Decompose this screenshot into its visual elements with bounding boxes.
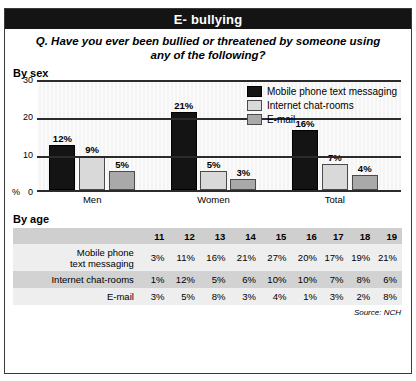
bar-value-label: 4% <box>352 163 378 174</box>
table-cell: 21% <box>375 244 402 271</box>
row-header: E-mail <box>13 288 139 305</box>
age-table-wrapper: 111213141516171819 Mobile phonetext mess… <box>13 228 402 305</box>
legend-label: E-mail <box>267 114 295 125</box>
bar-value-label: 21% <box>171 100 197 111</box>
table-cell: 12% <box>169 271 200 288</box>
table-cell: 3% <box>139 288 170 305</box>
source-note: Source: NCH <box>5 305 411 317</box>
section-label-by-sex: By sex <box>5 64 411 80</box>
bar-value-label: 9% <box>79 144 105 155</box>
y-axis-unit: % <box>12 187 20 197</box>
table-cell: 8% <box>200 288 231 305</box>
title-banner: E- bullying <box>5 9 411 29</box>
y-axis-tick: 20 <box>23 112 33 122</box>
legend-swatch-icon <box>247 100 262 111</box>
bar-women-series0 <box>171 112 197 190</box>
table-corner-cell <box>13 228 139 244</box>
age-table-body: Mobile phonetext messaging3%11%16%21%27%… <box>13 244 402 305</box>
legend-item: Internet chat-rooms <box>247 99 397 112</box>
table-row: Internet chat-rooms1%12%5%6%10%10%7%8%6% <box>13 271 402 288</box>
bar-men-series0 <box>49 145 75 190</box>
bar-value-label: 5% <box>200 159 226 170</box>
y-axis-tick: 10 <box>23 150 33 160</box>
age-table: 111213141516171819 Mobile phonetext mess… <box>13 228 402 305</box>
table-cell: 10% <box>291 271 322 288</box>
column-header-age-15: 15 <box>261 228 292 244</box>
table-cell: 3% <box>322 288 349 305</box>
page-title: E- bullying <box>174 12 243 27</box>
infographic-frame: E- bullying Q. Have you ever been bullie… <box>4 8 412 374</box>
bar-men-series2 <box>109 171 135 190</box>
table-cell: 11% <box>169 244 200 271</box>
bar-value-label: 3% <box>230 167 256 178</box>
y-axis-tick: 0 <box>28 187 33 197</box>
gridline <box>37 156 401 158</box>
y-axis: 0%102030 <box>13 80 35 192</box>
table-cell: 3% <box>139 244 170 271</box>
legend-label: Internet chat-rooms <box>267 100 354 111</box>
bar-chart: 0%102030 12%9%5%21%5%3%16%7%4% MenWomenT… <box>13 80 401 210</box>
table-header-row: 111213141516171819 <box>13 228 402 244</box>
table-cell: 4% <box>261 288 292 305</box>
table-cell: 1% <box>291 288 322 305</box>
column-header-age-18: 18 <box>349 228 376 244</box>
bar-total-series0 <box>292 130 318 190</box>
x-axis-label-women: Women <box>197 194 230 205</box>
table-cell: 6% <box>230 271 261 288</box>
legend-swatch-icon <box>247 86 262 97</box>
column-header-age-17: 17 <box>322 228 349 244</box>
x-axis-label-total: Total <box>325 194 345 205</box>
x-axis-label-men: Men <box>83 194 101 205</box>
table-cell: 19% <box>349 244 376 271</box>
legend-item: Mobile phone text messaging <box>247 85 397 98</box>
survey-question: Q. Have you ever been bullied or threate… <box>5 29 411 64</box>
legend-swatch-icon <box>247 114 262 125</box>
table-row: Mobile phonetext messaging3%11%16%21%27%… <box>13 244 402 271</box>
y-axis-tick: 30 <box>23 75 33 85</box>
table-cell: 2% <box>349 288 376 305</box>
table-cell: 17% <box>322 244 349 271</box>
table-cell: 7% <box>322 271 349 288</box>
table-cell: 6% <box>375 271 402 288</box>
age-table-head: 111213141516171819 <box>13 228 402 244</box>
bar-women-series1 <box>200 171 226 190</box>
table-cell: 3% <box>230 288 261 305</box>
column-header-age-16: 16 <box>291 228 322 244</box>
section-label-by-age: By age <box>5 210 411 226</box>
bar-value-label: 12% <box>49 133 75 144</box>
infographic-root: E- bullying Q. Have you ever been bullie… <box>0 0 416 381</box>
bar-men-series1 <box>79 156 105 190</box>
bar-value-label: 5% <box>109 159 135 170</box>
table-cell: 16% <box>200 244 231 271</box>
row-header: Internet chat-rooms <box>13 271 139 288</box>
table-cell: 10% <box>261 271 292 288</box>
column-header-age-14: 14 <box>230 228 261 244</box>
column-header-age-19: 19 <box>375 228 402 244</box>
column-header-age-11: 11 <box>139 228 170 244</box>
bar-total-series1 <box>322 164 348 190</box>
chart-legend: Mobile phone text messagingInternet chat… <box>247 85 397 127</box>
table-cell: 5% <box>169 288 200 305</box>
bar-women-series2 <box>230 179 256 190</box>
table-cell: 5% <box>200 271 231 288</box>
legend-item: E-mail <box>247 113 397 126</box>
bar-total-series2 <box>352 175 378 190</box>
column-header-age-12: 12 <box>169 228 200 244</box>
table-cell: 27% <box>261 244 292 271</box>
column-header-age-13: 13 <box>200 228 231 244</box>
table-cell: 21% <box>230 244 261 271</box>
table-row: E-mail3%5%8%3%4%1%3%2%8% <box>13 288 402 305</box>
row-header: Mobile phonetext messaging <box>13 244 139 271</box>
x-axis-category-labels: MenWomenTotal <box>37 193 401 207</box>
table-cell: 8% <box>349 271 376 288</box>
table-cell: 1% <box>139 271 170 288</box>
table-cell: 20% <box>291 244 322 271</box>
table-cell: 8% <box>375 288 402 305</box>
legend-label: Mobile phone text messaging <box>267 86 397 97</box>
